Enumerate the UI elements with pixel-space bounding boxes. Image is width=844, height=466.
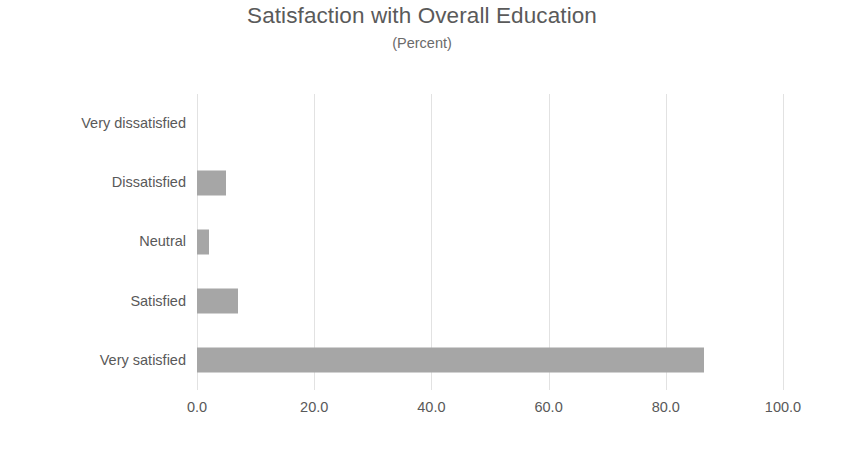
x-axis-tick-20.0: 20.0 (300, 396, 328, 418)
bar-chart: Satisfaction with Overall Education (Per… (0, 0, 844, 466)
y-axis-category-labels: Very dissatisfiedDissatisfiedNeutralSati… (0, 94, 186, 390)
page-title: Satisfaction with Overall Education (0, 2, 844, 30)
plot-area (197, 94, 783, 390)
y-axis-label-satisfied: Satisfied (0, 272, 186, 331)
bar-row (197, 153, 783, 212)
chart-title-block: Satisfaction with Overall Education (Per… (0, 2, 844, 53)
y-axis-label-very-dissatisfied: Very dissatisfied (0, 94, 186, 153)
x-axis-tick-labels: 0.020.040.060.080.0100.0 (197, 396, 783, 420)
bar-row (197, 212, 783, 271)
bar-dissatisfied (197, 170, 226, 195)
bar-row (197, 94, 783, 153)
y-axis-label-very-satisfied: Very satisfied (0, 331, 186, 390)
bar-satisfied (197, 289, 238, 314)
gridline (783, 94, 784, 390)
x-axis-tick-40.0: 40.0 (417, 396, 445, 418)
x-axis-tick-100.0: 100.0 (765, 396, 801, 418)
bar-row (197, 272, 783, 331)
y-axis-label-dissatisfied: Dissatisfied (0, 153, 186, 212)
y-axis-label-neutral: Neutral (0, 212, 186, 271)
x-axis-tick-60.0: 60.0 (534, 396, 562, 418)
bar-neutral (197, 229, 209, 254)
bar-very-satisfied (197, 348, 704, 373)
x-axis-tick-80.0: 80.0 (652, 396, 680, 418)
bar-row (197, 331, 783, 390)
chart-subtitle: (Percent) (0, 33, 844, 53)
x-axis-tick-0.0: 0.0 (187, 396, 207, 418)
